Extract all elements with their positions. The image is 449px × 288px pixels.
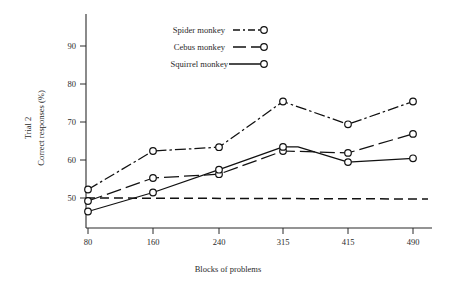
y-axis: 90 80 70 60 50 (68, 14, 87, 228)
legend-item-spider-monkey: Spider monkey (173, 25, 268, 35)
series-squirrel-monkey (85, 144, 417, 215)
x-ticklabel-240: 240 (213, 237, 226, 247)
series-line-spider-monkey (88, 102, 413, 190)
x-axis-title: Blocks of problems (195, 264, 262, 274)
y-axis-title-line1: Trial 2 (23, 117, 33, 140)
series-line-squirrel-monkey (88, 147, 413, 212)
legend-marker (261, 27, 268, 34)
chart-svg: 90 80 70 60 50 80 160 240 315 415 490 Bl… (0, 0, 449, 288)
y-axis-title-line2: Correct responses (%) (36, 90, 46, 166)
legend-label-cebus-monkey: Cebus monkey (174, 42, 226, 52)
x-ticklabel-160: 160 (147, 237, 160, 247)
legend-item-cebus-monkey: Cebus monkey (174, 42, 268, 52)
y-ticklabel-90: 90 (68, 41, 77, 51)
data-point (85, 186, 92, 193)
data-point (85, 198, 92, 205)
x-ticklabel-80: 80 (84, 237, 93, 247)
chance-reference-line (86, 198, 428, 199)
legend-label-spider-monkey: Spider monkey (173, 25, 226, 35)
y-ticklabel-80: 80 (68, 79, 77, 89)
x-ticklabel-490: 490 (407, 237, 420, 247)
data-point (85, 208, 92, 215)
series-line-cebus-monkey (88, 134, 413, 201)
x-axis: 80 160 240 315 415 490 (84, 228, 432, 247)
data-point (345, 121, 352, 128)
data-point (150, 148, 157, 155)
legend-item-squirrel-monkey: Squirrel monkey (170, 59, 267, 69)
data-point (150, 189, 157, 196)
data-point (280, 144, 287, 151)
chart-figure: 90 80 70 60 50 80 160 240 315 415 490 Bl… (0, 0, 449, 288)
legend-marker (261, 44, 268, 51)
data-point (345, 159, 352, 166)
data-point (345, 150, 352, 157)
y-ticklabel-50: 50 (68, 193, 77, 203)
y-ticklabel-60: 60 (68, 155, 77, 165)
series-spider-monkey (85, 98, 417, 193)
series-cebus-monkey (85, 131, 417, 205)
data-point (216, 166, 223, 173)
data-point (410, 131, 417, 138)
chart-legend: Spider monkey Cebus monkey Squirrel monk… (170, 25, 267, 69)
data-point (216, 144, 223, 151)
x-ticklabel-315: 315 (277, 237, 290, 247)
data-point (410, 155, 417, 162)
data-point (150, 175, 157, 182)
data-point (410, 98, 417, 105)
data-point (280, 98, 287, 105)
y-ticklabel-70: 70 (68, 117, 77, 127)
legend-marker (261, 61, 268, 68)
x-ticklabel-415: 415 (342, 237, 355, 247)
legend-label-squirrel-monkey: Squirrel monkey (170, 59, 228, 69)
